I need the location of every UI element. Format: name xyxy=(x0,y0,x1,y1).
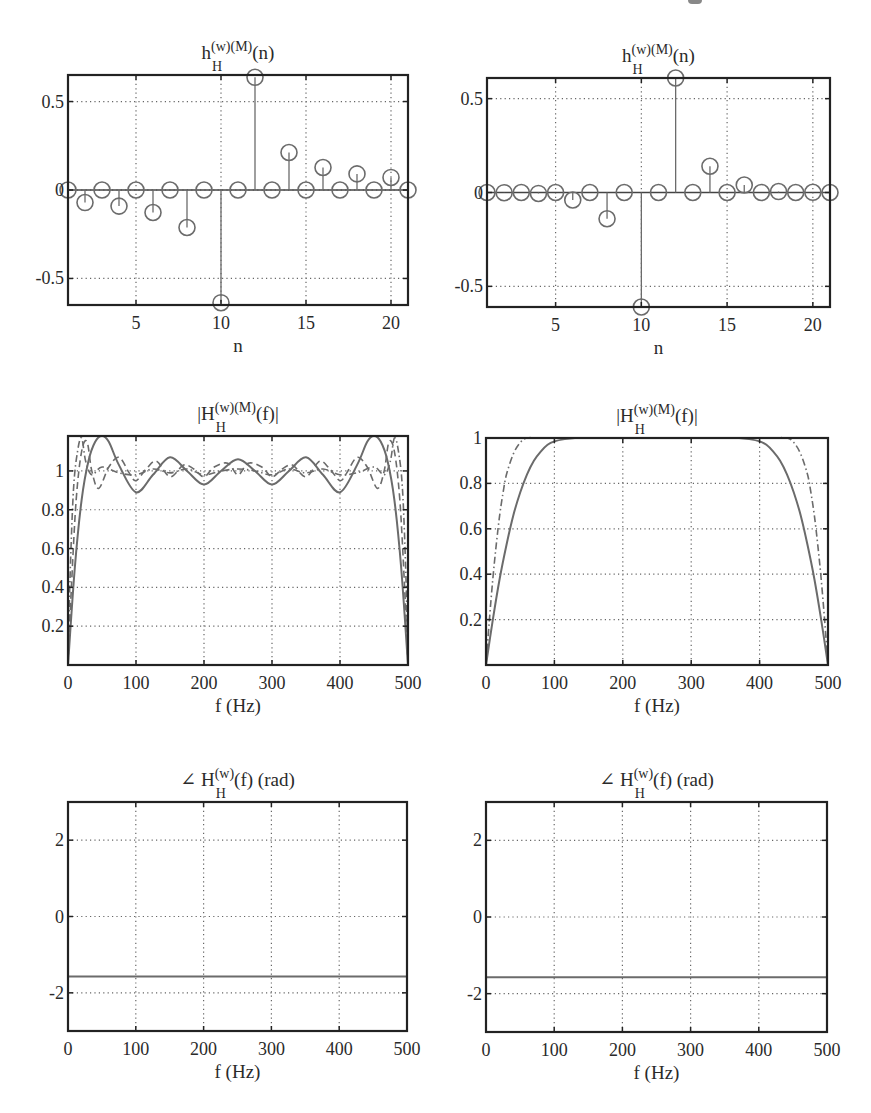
x-tick-label: 15 xyxy=(718,315,736,335)
chart-magnitude-right: 01002003004005000.20.40.60.81f (Hz)|H(w)… xyxy=(460,402,842,717)
grid xyxy=(486,802,827,1032)
x-tick-label: 20 xyxy=(804,315,822,335)
x-tick-label: 0 xyxy=(482,673,491,693)
x-tick-label: 200 xyxy=(191,673,218,693)
axes-frame xyxy=(68,802,407,1031)
y-tick-label: 0.5 xyxy=(461,89,484,109)
series-line xyxy=(68,436,408,665)
chart-title: |H(w)(M)(f)| xyxy=(616,402,698,427)
x-tick-label: 100 xyxy=(123,673,150,693)
x-axis-label: f (Hz) xyxy=(215,1061,261,1083)
chart-phase-left: 0100200300400500-202f (Hz)∠ H(w)(f) (rad… xyxy=(49,766,421,1083)
axes-frame xyxy=(486,802,827,1032)
x-tick-label: 100 xyxy=(541,673,568,693)
chart-title-subscript: H xyxy=(212,59,222,74)
figure: 5101520-0.500.5nh(w)(M)(n)H 5101520-0.50… xyxy=(0,0,871,1113)
x-tick-label: 400 xyxy=(745,1040,772,1060)
chart-title-subscript: H xyxy=(216,786,226,801)
grid xyxy=(68,436,408,665)
grid xyxy=(68,802,407,1031)
x-axis-label: n xyxy=(233,335,243,356)
x-tick-label: 200 xyxy=(609,673,636,693)
y-tick-label: 0 xyxy=(473,907,482,927)
y-tick-label: 0.8 xyxy=(460,473,483,493)
x-tick-label: 15 xyxy=(297,313,315,333)
x-tick-label: 100 xyxy=(122,1039,149,1059)
x-axis-label: f (Hz) xyxy=(634,1062,680,1084)
y-tick-label: 1 xyxy=(55,461,64,481)
y-tick-label: 2 xyxy=(473,830,482,850)
x-tick-label: 400 xyxy=(746,673,773,693)
plot-area xyxy=(479,70,838,315)
chart-title-subscript: H xyxy=(635,422,645,437)
ticks: 01002003004005000.20.40.60.81 xyxy=(42,436,422,693)
x-tick-label: 0 xyxy=(482,1040,491,1060)
x-tick-label: 5 xyxy=(551,315,560,335)
chart-title-subscript: H xyxy=(216,420,226,435)
x-tick-label: 400 xyxy=(326,1039,353,1059)
y-tick-label: -0.5 xyxy=(36,268,65,288)
y-tick-label: 0.2 xyxy=(42,616,65,636)
x-tick-label: 0 xyxy=(64,1039,73,1059)
axes-frame xyxy=(486,438,828,665)
y-tick-label: 0.6 xyxy=(42,539,65,559)
ticks: 5101520-0.500.5 xyxy=(455,78,831,335)
chart-title-subscript: H xyxy=(633,62,643,77)
x-tick-label: 20 xyxy=(382,313,400,333)
x-axis-label: n xyxy=(654,337,664,358)
x-tick-label: 500 xyxy=(815,673,842,693)
x-tick-label: 200 xyxy=(609,1040,636,1060)
series-line xyxy=(68,438,408,665)
y-tick-label: 0.5 xyxy=(42,92,65,112)
plot-area xyxy=(68,436,408,665)
axes-frame xyxy=(68,436,408,665)
grid xyxy=(486,438,828,665)
chart-title-subscript: H xyxy=(635,786,645,801)
x-tick-label: 200 xyxy=(190,1039,217,1059)
x-tick-label: 500 xyxy=(814,1040,841,1060)
chart-title: ∠ H(w)(f) (rad) xyxy=(599,766,714,791)
x-tick-label: 300 xyxy=(678,673,705,693)
x-tick-label: 300 xyxy=(677,1040,704,1060)
y-tick-label: 0 xyxy=(55,907,64,927)
series-line xyxy=(486,438,828,665)
x-tick-label: 300 xyxy=(258,1039,285,1059)
x-tick-label: 5 xyxy=(132,313,141,333)
plot-area xyxy=(60,69,416,310)
y-tick-label: 0.2 xyxy=(460,610,483,630)
y-tick-label: -2 xyxy=(467,984,482,1004)
x-tick-label: 400 xyxy=(327,673,354,693)
y-tick-label: 0 xyxy=(474,183,483,203)
chart-title: ∠ H(w)(f) (rad) xyxy=(180,766,295,791)
y-tick-label: 0.4 xyxy=(42,577,65,597)
x-tick-label: 10 xyxy=(632,315,650,335)
series-line xyxy=(486,438,828,665)
x-tick-label: 500 xyxy=(394,1039,421,1059)
ticks: 0100200300400500-202 xyxy=(49,802,421,1059)
chart-magnitude-left: 01002003004005000.20.40.60.81f (Hz)|H(w)… xyxy=(42,400,422,717)
x-tick-label: 300 xyxy=(259,673,286,693)
chart-phase-right: 0100200300400500-202f (Hz)∠ H(w)(f) (rad… xyxy=(467,766,841,1084)
x-tick-label: 0 xyxy=(64,673,73,693)
chart-impulse-left: 5101520-0.500.5nh(w)(M)(n)H xyxy=(36,39,417,356)
y-tick-label: 0.8 xyxy=(42,500,65,520)
y-tick-label: 1 xyxy=(473,428,482,448)
y-tick-label: 0.6 xyxy=(460,519,483,539)
y-tick-label: 0 xyxy=(55,180,64,200)
x-tick-label: 100 xyxy=(541,1040,568,1060)
x-tick-label: 500 xyxy=(395,673,422,693)
y-tick-label: 2 xyxy=(55,830,64,850)
y-tick-label: 0.4 xyxy=(460,564,483,584)
x-axis-label: f (Hz) xyxy=(634,695,680,717)
x-axis-label: f (Hz) xyxy=(215,695,261,717)
y-tick-label: -2 xyxy=(49,983,64,1003)
y-tick-label: -0.5 xyxy=(455,276,484,296)
chart-impulse-right: 5101520-0.500.5nh(w)(M)(n)H xyxy=(455,42,839,358)
series-line xyxy=(68,441,408,665)
plot-area xyxy=(486,438,828,665)
chart-title: |H(w)(M)(f)| xyxy=(197,400,279,425)
x-tick-label: 10 xyxy=(212,313,230,333)
